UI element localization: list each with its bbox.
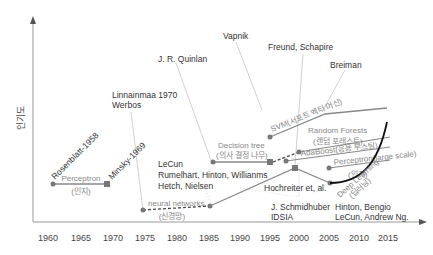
marker-dot xyxy=(51,182,56,187)
svg-text:Decision tree: Decision tree xyxy=(218,141,265,150)
label-minsky: Minsky-1969 xyxy=(106,140,147,181)
svg-text:(신경망): (신경망) xyxy=(159,211,186,221)
ml-history-timeline: 인기도 1960 1965 1970 1975 1980 1985 1990 1… xyxy=(0,0,433,255)
era-perceptron: Perceptron (인지) Rosenblatt-1958 Minsky-1… xyxy=(49,130,147,196)
label-hinton: Hinton, Bengio xyxy=(335,202,391,212)
label-schmidhuber: J. Schmidhuber xyxy=(271,202,330,212)
y-axis-arrow-icon xyxy=(30,16,36,24)
x-tick: 1975 xyxy=(135,233,155,243)
x-tick: 1960 xyxy=(38,233,58,243)
label-quinlan: J. R. Quinlan xyxy=(158,54,207,64)
label-vapnik: Vapnik xyxy=(223,31,249,41)
x-tick: 2005 xyxy=(319,233,339,243)
x-ticks: 1960 1965 1970 1975 1980 1985 1990 1995 … xyxy=(38,233,398,243)
svg-text:neural networks: neural networks xyxy=(148,199,204,208)
x-tick: 2000 xyxy=(289,233,309,243)
x-axis-arrow-icon xyxy=(419,219,427,225)
svg-text:(의사 결정 나무): (의사 결정 나무) xyxy=(216,150,268,160)
label-lecun: LeCun xyxy=(158,159,183,169)
svg-text:(인지): (인지) xyxy=(71,186,91,196)
y-axis-label: 인기도 xyxy=(16,106,26,130)
x-tick: 1970 xyxy=(103,233,123,243)
label-linnainmaa: Linnainmaa 1970 xyxy=(112,90,177,100)
marker-square xyxy=(104,181,110,187)
label-freund: Freund, Schapire xyxy=(268,42,333,52)
label-hetch: Hetch, Nielsen xyxy=(158,181,214,191)
label-hochreiter: Hochreiter et, al. xyxy=(264,183,326,193)
x-tick: 2015 xyxy=(378,233,398,243)
label-rumelhart: Rumelhart, Hinton, Willianms xyxy=(158,170,268,180)
label-breiman: Breiman xyxy=(330,60,362,70)
x-tick: 1965 xyxy=(71,233,91,243)
x-tick: 1995 xyxy=(260,233,280,243)
x-tick: 1990 xyxy=(230,233,250,243)
era-decision-tree: Decision tree (의사 결정 나무) J. R. Quinlan xyxy=(158,54,299,165)
x-tick: 2010 xyxy=(349,233,369,243)
x-tick: 1980 xyxy=(167,233,187,243)
x-tick: 1985 xyxy=(199,233,219,243)
svg-text:Perceptron: Perceptron xyxy=(61,174,100,183)
label-lecun-ng: LeCun, Andrew Ng. xyxy=(335,212,409,222)
svg-text:Random Forests: Random Forests xyxy=(308,126,367,135)
label-idsia: IDSIA xyxy=(271,212,294,222)
label-werbos: Werbos xyxy=(112,100,141,110)
